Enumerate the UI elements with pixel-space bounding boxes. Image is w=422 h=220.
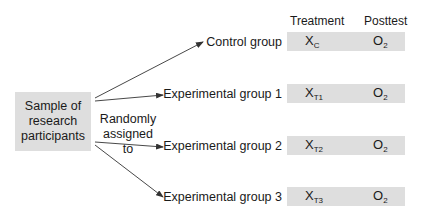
group-label-control: Control group bbox=[206, 35, 282, 49]
sample-label-line3: participants bbox=[21, 129, 85, 144]
row-bar-control: XC O2 bbox=[287, 32, 405, 51]
group-label-experimental-2: Experimental group 2 bbox=[163, 139, 282, 153]
posttest-cell: O2 bbox=[373, 188, 388, 205]
row-bar-experimental-2: XT2 O2 bbox=[287, 136, 405, 155]
arrow-to-experimental-1 bbox=[95, 95, 163, 101]
treatment-cell: XT2 bbox=[305, 137, 323, 154]
treatment-cell: XC bbox=[305, 33, 319, 50]
row-bar-experimental-3: XT3 O2 bbox=[287, 187, 405, 206]
treatment-cell: XT3 bbox=[305, 188, 323, 205]
posttest-header: Posttest bbox=[364, 14, 407, 28]
sample-label-line1: Sample of bbox=[21, 99, 85, 114]
sample-box: Sample of research participants bbox=[15, 92, 91, 151]
assignment-line1: Randomly bbox=[97, 112, 159, 127]
posttest-cell: O2 bbox=[373, 137, 388, 154]
posttest-cell: O2 bbox=[373, 85, 388, 102]
group-label-experimental-1: Experimental group 1 bbox=[163, 87, 282, 101]
treatment-header: Treatment bbox=[290, 14, 344, 28]
posttest-only-design-diagram: Sample of research participants Randomly… bbox=[0, 0, 422, 220]
treatment-cell: XT1 bbox=[305, 85, 323, 102]
group-label-experimental-3: Experimental group 3 bbox=[163, 190, 282, 204]
row-bar-experimental-1: XT1 O2 bbox=[287, 84, 405, 103]
random-assignment-label: Randomly assigned to bbox=[97, 112, 159, 157]
sample-label-line2: research bbox=[21, 114, 85, 129]
posttest-cell: O2 bbox=[373, 33, 388, 50]
assignment-line2: assigned to bbox=[97, 127, 159, 157]
